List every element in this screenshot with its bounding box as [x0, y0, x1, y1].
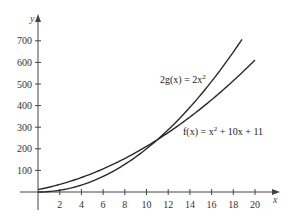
y-tick-label: 600	[17, 57, 32, 68]
y-tick-label: 300	[17, 122, 32, 133]
g-curve	[38, 39, 242, 192]
x-tick-label: 18	[228, 199, 238, 210]
f-curve	[38, 60, 255, 190]
g-label-main: 2g(x) = 2x	[160, 74, 202, 86]
y-tick-label: 100	[17, 165, 32, 176]
x-tick-label: 14	[185, 199, 195, 210]
x-tick-label: 16	[207, 199, 217, 210]
ticks: 2468101214161820100200300400500600700	[17, 35, 260, 210]
curves	[38, 39, 255, 192]
y-tick-label: 200	[17, 143, 32, 154]
y-tick-label: 500	[17, 79, 32, 90]
x-tick-label: 10	[142, 199, 152, 210]
f-label-post: + 10x + 11	[217, 126, 263, 137]
y-tick-label: 700	[17, 35, 32, 46]
y-axis-arrow-icon	[35, 14, 41, 22]
g-label-sup: 2	[202, 73, 206, 81]
x-tick-label: 4	[79, 199, 84, 210]
x-tick-label: 2	[57, 199, 62, 210]
g-curve-label: 2g(x) = 2x2	[160, 73, 206, 86]
f-curve-label: f(x) = x2 + 10x + 11	[183, 125, 263, 138]
x-tick-label: 6	[101, 199, 106, 210]
f-label-pre: f(x) = x	[183, 126, 214, 138]
y-tick-label: 400	[17, 100, 32, 111]
y-axis-label: y	[29, 13, 35, 24]
x-tick-label: 12	[163, 199, 173, 210]
x-tick-label: 20	[250, 199, 260, 210]
x-axis-label: x	[272, 194, 278, 205]
function-graph: 2468101214161820100200300400500600700 y …	[0, 0, 290, 222]
x-tick-label: 8	[122, 199, 127, 210]
axes	[20, 14, 280, 210]
